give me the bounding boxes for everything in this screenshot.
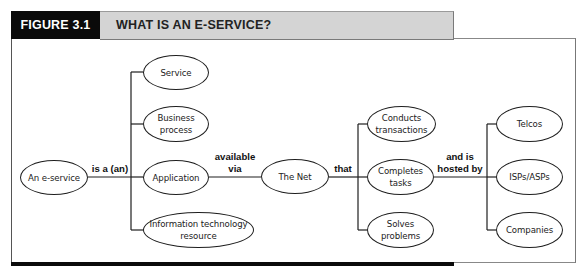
connector-lines	[0, 0, 584, 277]
node-the-net: The Net	[261, 159, 329, 194]
node-completes-tasks: Completes tasks	[367, 159, 434, 195]
node-label: The Net	[278, 171, 311, 183]
node-conducts-transactions: Conducts transactions	[367, 106, 436, 142]
node-solves-problems: Solves problems	[367, 212, 434, 248]
node-business-process: Business process	[143, 106, 209, 142]
node-label: Solves problems	[381, 218, 420, 242]
node-label: ISPs/ASPs	[509, 171, 549, 183]
node-label: Completes tasks	[378, 165, 423, 189]
relation-hosted-by: and is hosted by	[432, 151, 488, 175]
relation-that: that	[329, 163, 357, 175]
node-label: Companies	[506, 224, 553, 236]
node-label: An e-service	[28, 172, 80, 184]
node-service: Service	[143, 55, 209, 90]
relation-is-a: is a (an)	[90, 163, 130, 175]
node-label: Information technology resource	[150, 218, 248, 242]
node-label: Telcos	[517, 118, 542, 130]
node-application: Application	[143, 160, 209, 195]
relation-available-via: available via	[210, 151, 260, 175]
node-label: Service	[160, 67, 191, 79]
node-companies: Companies	[496, 212, 563, 248]
node-e-service: An e-service	[20, 160, 88, 195]
node-isps-asps: ISPs/ASPs	[496, 159, 563, 195]
node-telcos: Telcos	[496, 106, 563, 142]
node-label: Business process	[157, 112, 194, 136]
node-label: Conducts transactions	[376, 112, 428, 136]
node-label: Application	[153, 172, 200, 184]
node-it-resource: Information technology resource	[143, 212, 254, 248]
figure-canvas: FIGURE 3.1 WHAT IS AN E-SERVICE?	[0, 0, 584, 277]
